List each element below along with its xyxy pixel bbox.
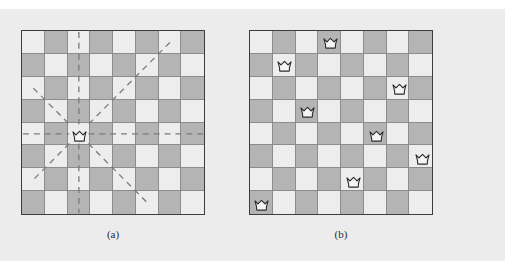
- board-square: [90, 123, 113, 146]
- board-square: [273, 54, 296, 77]
- board-square: [22, 77, 45, 100]
- board-square: [409, 54, 432, 77]
- board-square: [45, 31, 68, 54]
- board-square: [159, 191, 182, 214]
- board-grid-a: [22, 31, 204, 214]
- board-square: [90, 168, 113, 191]
- board-square: [250, 54, 273, 77]
- board-square: [387, 123, 410, 146]
- board-square: [90, 31, 113, 54]
- board-square: [68, 77, 91, 100]
- board-square: [409, 145, 432, 168]
- board-square: [113, 31, 136, 54]
- board-square: [409, 31, 432, 54]
- board-square: [45, 54, 68, 77]
- board-square: [409, 191, 432, 214]
- chessboard-panel-b: [249, 30, 433, 215]
- board-square: [250, 77, 273, 100]
- board-square: [364, 77, 387, 100]
- board-square: [22, 191, 45, 214]
- figure-root: (a) (b): [0, 0, 505, 270]
- board-square: [318, 54, 341, 77]
- board-square: [68, 145, 91, 168]
- board-square: [364, 123, 387, 146]
- board-square: [273, 191, 296, 214]
- board-square: [113, 77, 136, 100]
- board-square: [364, 145, 387, 168]
- board-square: [273, 77, 296, 100]
- board-square: [318, 191, 341, 214]
- board-square: [296, 100, 319, 123]
- board-square: [409, 123, 432, 146]
- board-square: [68, 54, 91, 77]
- board-square: [136, 191, 159, 214]
- board-square: [250, 168, 273, 191]
- board-square: [296, 168, 319, 191]
- board-square: [45, 123, 68, 146]
- board-square: [181, 54, 204, 77]
- board-square: [159, 100, 182, 123]
- board-square: [273, 123, 296, 146]
- board-square: [90, 100, 113, 123]
- board-square: [68, 191, 91, 214]
- board-square: [136, 100, 159, 123]
- board-square: [22, 54, 45, 77]
- board-square: [113, 145, 136, 168]
- chessboard-b: [249, 30, 433, 215]
- board-square: [318, 77, 341, 100]
- board-square: [409, 168, 432, 191]
- board-square: [113, 100, 136, 123]
- board-square: [250, 191, 273, 214]
- board-square: [296, 145, 319, 168]
- board-square: [22, 145, 45, 168]
- board-square: [409, 100, 432, 123]
- board-square: [181, 123, 204, 146]
- board-square: [273, 145, 296, 168]
- board-square: [341, 31, 364, 54]
- board-square: [364, 54, 387, 77]
- board-square: [387, 54, 410, 77]
- board-square: [159, 168, 182, 191]
- board-square: [68, 100, 91, 123]
- board-square: [45, 100, 68, 123]
- board-square: [113, 191, 136, 214]
- board-square: [181, 145, 204, 168]
- board-square: [136, 168, 159, 191]
- board-square: [387, 100, 410, 123]
- board-square: [296, 31, 319, 54]
- board-square: [250, 100, 273, 123]
- board-square: [341, 100, 364, 123]
- board-square: [181, 100, 204, 123]
- board-square: [364, 191, 387, 214]
- board-square: [387, 191, 410, 214]
- board-square: [364, 168, 387, 191]
- board-square: [113, 168, 136, 191]
- board-square: [296, 77, 319, 100]
- board-square: [341, 123, 364, 146]
- board-square: [296, 191, 319, 214]
- chessboard-panel-a: [21, 30, 205, 215]
- board-square: [159, 54, 182, 77]
- board-square: [387, 168, 410, 191]
- board-square: [341, 77, 364, 100]
- board-square: [136, 54, 159, 77]
- board-square: [181, 191, 204, 214]
- board-square: [318, 123, 341, 146]
- board-square: [387, 145, 410, 168]
- board-square: [68, 168, 91, 191]
- board-square: [341, 191, 364, 214]
- board-square: [250, 31, 273, 54]
- board-square: [159, 77, 182, 100]
- board-square: [45, 168, 68, 191]
- board-square: [341, 54, 364, 77]
- board-square: [273, 168, 296, 191]
- board-square: [68, 31, 91, 54]
- board-square: [136, 77, 159, 100]
- board-square: [159, 31, 182, 54]
- board-square: [341, 168, 364, 191]
- board-square: [136, 145, 159, 168]
- board-square: [250, 145, 273, 168]
- board-square: [90, 54, 113, 77]
- board-square: [387, 31, 410, 54]
- board-square: [136, 123, 159, 146]
